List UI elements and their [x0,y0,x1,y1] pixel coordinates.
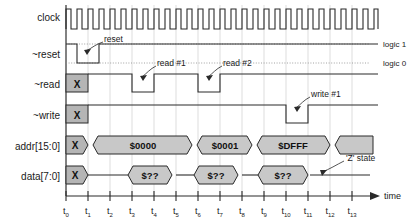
time-axis-label: time [384,191,401,201]
time-tick-12: t12 [325,206,335,218]
bus-value-data-1: $?? [208,170,225,181]
time-tick-5: t5 [173,206,180,218]
bus-value-data-2: $?? [275,170,292,181]
read2-annotation-label: read #2 [223,58,252,68]
bus-value-addr-2: $DFFF [278,140,308,151]
unknown-marker-data: X [72,170,79,181]
read1-annotation-label: read #1 [157,58,186,68]
signal-label-write: ~write [33,110,60,121]
time-tick-9: t9 [261,206,268,218]
time-tick-7: t7 [217,206,224,218]
bus-value-data-0: $?? [142,170,159,181]
signal-label-clock: clock [37,12,61,23]
time-tick-2: t2 [107,206,114,218]
waveform-reset [66,44,378,63]
time-tick-10: t10 [281,206,291,218]
z-state-label: 'Z' state [346,153,375,163]
timing-diagram-root: clock ~reset logic 1 logic 0 reset ~read… [0,0,419,224]
reset-annotation-label: reset [104,34,124,44]
time-tick-3: t3 [129,206,136,218]
signal-label-addr: addr[15:0] [15,141,60,152]
z-state-annotation: 'Z' state [320,153,375,176]
signal-label-reset: ~reset [32,49,60,60]
write1-annotation-label: write #1 [310,89,341,99]
bus-block-addr-trailing [335,136,373,154]
time-tick-11: t11 [304,206,313,218]
timing-diagram-svg: clock ~reset logic 1 logic 0 reset ~read… [0,0,419,224]
time-tick-8: t8 [239,206,246,218]
logic-high-label: logic 1 [383,40,407,49]
waveform-write [88,105,378,123]
logic-low-label: logic 0 [383,59,407,68]
time-tick-4: t4 [151,206,158,218]
write1-annotation: write #1 [294,89,341,112]
read2-annotation: read #2 [206,58,252,81]
time-axis: time t0 t1 t2 t3 t4 t5 t6 t7 t8 t9 t10 t… [63,191,401,218]
bus-value-addr-1: $0001 [212,140,239,151]
time-tick-0: t0 [63,206,70,218]
bus-value-addr-0: $0000 [130,140,156,151]
signal-label-data: data[7:0] [21,171,60,182]
time-tick-13: t13 [347,206,357,218]
unknown-marker-write: X [74,110,81,121]
time-tick-6: t6 [195,206,202,218]
unknown-marker-addr: X [72,140,79,151]
time-tick-1: t1 [85,206,92,218]
read1-annotation: read #1 [140,58,186,81]
signal-label-read: ~read [34,79,60,90]
waveform-clock [66,9,378,29]
time-axis-arrow [370,192,380,200]
unknown-marker-read: X [74,79,81,90]
